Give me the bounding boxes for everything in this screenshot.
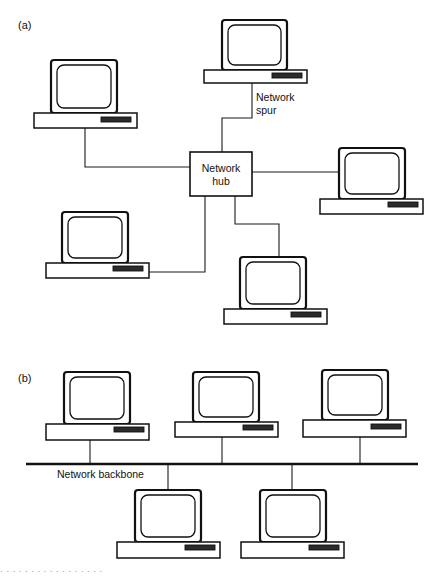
computer-bottom-2 [241,490,344,558]
wire-bottom-left-to-hub [149,196,205,272]
computer-right [320,148,423,214]
monitor-screen [199,377,253,417]
base-slot [114,427,144,432]
base-slot [309,545,339,550]
hub-label-line2: hub [212,175,230,187]
computer-top-3 [303,370,406,437]
wire-top-center-to-hub [222,83,252,152]
computer-top-1 [46,372,149,440]
monitor-screen [228,25,281,65]
panel-a-label: (a) [18,19,31,31]
monitor-screen [328,375,382,415]
base-slot [371,424,401,429]
base-slot [101,117,131,122]
panel-b: (b) Network backbone [18,370,418,558]
network-spur-annotation: Network spur [256,91,295,116]
hub-box [190,152,252,196]
base-slot [185,545,215,550]
caption-strip: · · · · · · · · · · · · · · · · · [0,566,436,578]
figure-root: (a) [0,0,436,578]
monitor-screen [70,377,124,419]
computer-bottom-left [46,212,149,278]
network-hub: Network hub [190,152,252,196]
monitor-screen [141,495,195,537]
monitor-screen [246,262,300,304]
panel-a: (a) [18,19,423,324]
base-slot [272,73,302,78]
network-backbone-label: Network backbone [57,468,144,480]
monitor-screen [68,217,122,258]
panel-b-label: (b) [18,372,31,384]
wire-top-left-to-hub [85,128,190,167]
computer-bottom-center [224,257,327,324]
base-slot [291,312,321,317]
computer-bottom-1 [117,490,220,558]
computer-top-center [204,20,307,83]
base-slot [113,266,143,271]
computer-top-2 [175,372,278,437]
hub-label-line1: Network [202,162,241,174]
wire-bottom-center-to-hub [235,196,279,257]
base-slot [388,202,418,207]
monitor-screen [345,153,399,194]
network-spur-label-line1: Network [256,91,295,103]
monitor-screen [266,495,320,537]
caption-text: · · · · · · · · · · · · · · · · · [0,566,436,576]
computer-top-left [34,60,137,128]
network-spur-label-line2: spur [256,104,277,116]
network-topology-diagram: (a) [0,0,436,578]
base-slot [243,425,273,430]
monitor-screen [57,65,111,108]
